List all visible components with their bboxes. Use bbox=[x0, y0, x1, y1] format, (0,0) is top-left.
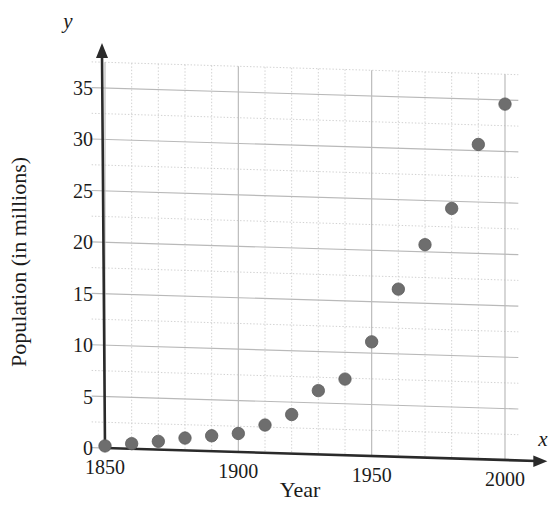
data-point bbox=[285, 408, 297, 420]
x-tick-label: 1850 bbox=[85, 456, 125, 478]
x-axis-title: Year bbox=[280, 477, 321, 502]
data-point bbox=[232, 427, 244, 439]
y-axis-letter: y bbox=[61, 9, 73, 33]
data-point bbox=[392, 283, 404, 295]
y-tick-label: 0 bbox=[83, 437, 93, 459]
data-point bbox=[445, 202, 457, 214]
data-point bbox=[365, 336, 377, 348]
y-tick-label: 10 bbox=[73, 334, 93, 356]
y-tick-label: 35 bbox=[73, 77, 93, 99]
y-axis-tick-labels: 05101520253035 bbox=[73, 77, 93, 459]
gridlines-minor bbox=[92, 62, 519, 459]
data-point bbox=[499, 98, 511, 110]
data-point bbox=[472, 138, 484, 150]
gridlines-major bbox=[92, 62, 519, 460]
data-point bbox=[125, 437, 137, 449]
y-tick-label: 20 bbox=[73, 231, 93, 253]
data-point bbox=[179, 432, 191, 444]
data-point bbox=[259, 419, 271, 431]
y-tick-label: 15 bbox=[73, 283, 93, 305]
data-point bbox=[312, 384, 324, 396]
x-tick-label: 2000 bbox=[485, 468, 525, 490]
y-tick-label: 25 bbox=[73, 180, 93, 202]
y-axis-title: Population (in millions) bbox=[6, 157, 31, 367]
data-point bbox=[205, 430, 217, 442]
y-tick-label: 5 bbox=[83, 386, 93, 408]
data-point bbox=[152, 435, 164, 447]
data-point bbox=[99, 440, 111, 452]
x-tick-label: 1900 bbox=[218, 460, 258, 482]
y-tick-label: 30 bbox=[73, 128, 93, 150]
x-tick-label: 1950 bbox=[352, 464, 392, 486]
data-points bbox=[99, 98, 511, 452]
data-point bbox=[339, 373, 351, 385]
x-axis-letter: x bbox=[537, 427, 548, 451]
population-scatter-chart: 1850190019502000 05101520253035 y x Year… bbox=[0, 0, 559, 510]
data-point bbox=[419, 238, 431, 250]
chart-canvas: 1850190019502000 05101520253035 y x Year… bbox=[0, 0, 559, 510]
